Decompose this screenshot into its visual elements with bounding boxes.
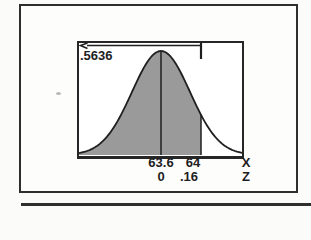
z-tick-boundary: .16	[177, 170, 201, 183]
x-tick-mean: 63.6	[145, 156, 177, 169]
x-axis-label: X	[239, 156, 253, 169]
z-axis-label: Z	[239, 170, 253, 183]
scan-noise-dot	[56, 92, 61, 95]
next-figure-top-border	[21, 203, 311, 206]
x-tick-boundary: 64	[181, 156, 205, 169]
z-tick-mean: 0	[145, 170, 177, 183]
plot-box: .5636	[77, 41, 244, 159]
shaded-area	[79, 51, 201, 155]
probability-value: .5636	[80, 49, 113, 62]
